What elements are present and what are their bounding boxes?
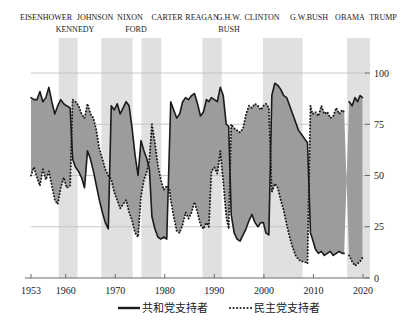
president-label: KENNEDY bbox=[56, 25, 95, 34]
president-label: BUSH bbox=[218, 25, 240, 34]
president-label: FORD bbox=[125, 25, 147, 34]
x-tick-label: 1970 bbox=[105, 285, 125, 296]
legend-label: 民主党支持者 bbox=[254, 301, 320, 314]
x-tick-label: 2020 bbox=[353, 285, 373, 296]
president-label: REAGAN bbox=[185, 13, 219, 22]
president-label: EISENHOWER bbox=[20, 13, 73, 22]
x-tick-label: 1990 bbox=[204, 285, 224, 296]
approval-ratings-chart: 0255075100 19531960197019801990200020102… bbox=[0, 0, 408, 325]
president-label: TRUMP bbox=[369, 13, 397, 22]
x-tick-label: 1980 bbox=[155, 285, 175, 296]
y-tick-label: 0 bbox=[374, 273, 379, 284]
x-tick-label: 1960 bbox=[56, 285, 76, 296]
y-tick-label: 100 bbox=[374, 68, 389, 79]
x-tick-label: 2010 bbox=[303, 285, 323, 296]
president-label: CARTER bbox=[151, 13, 183, 22]
y-tick-label: 25 bbox=[374, 221, 384, 232]
x-tick-label: 1953 bbox=[21, 285, 41, 296]
x-tick-label: 2000 bbox=[254, 285, 274, 296]
y-tick-label: 50 bbox=[374, 170, 384, 181]
president-label: NIXON bbox=[117, 13, 143, 22]
legend-label: 共和党支持者 bbox=[142, 301, 208, 314]
president-label: G.H.W. bbox=[217, 13, 241, 22]
president-label: CLINTON bbox=[245, 13, 280, 22]
president-label: OBAMA bbox=[335, 13, 365, 22]
president-label: JOHNSON bbox=[77, 13, 114, 22]
chart-canvas: 0255075100 19531960197019801990200020102… bbox=[0, 0, 408, 325]
y-tick-label: 75 bbox=[374, 119, 384, 130]
president-label: G.W.BUSH bbox=[290, 13, 328, 22]
